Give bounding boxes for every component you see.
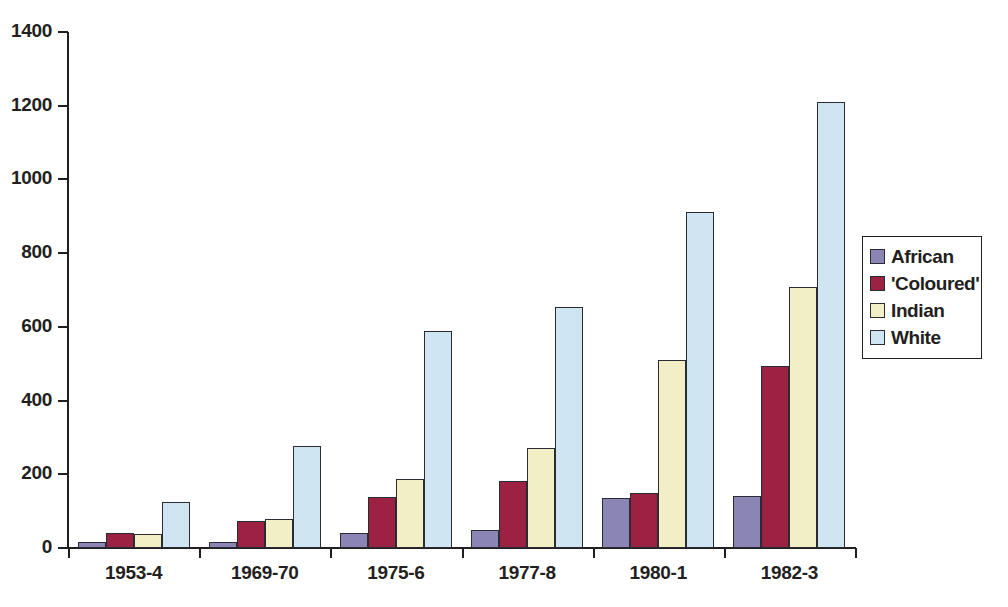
- legend-swatch-icon: [870, 249, 885, 264]
- bar: [78, 542, 106, 548]
- bar: [424, 331, 452, 548]
- bar: [527, 448, 555, 548]
- legend-swatch-icon: [870, 303, 885, 318]
- x-axis-tick: [855, 548, 857, 558]
- x-axis-tick: [199, 548, 201, 558]
- bar: [471, 530, 499, 548]
- x-axis-tick: [462, 548, 464, 558]
- bar: [368, 497, 396, 548]
- bar: [686, 212, 714, 548]
- bar-chart: 0200400600800100012001400 1953-41969-701…: [0, 0, 1008, 607]
- bar: [396, 479, 424, 548]
- chart-legend: African'Coloured'IndianWhite: [862, 236, 982, 359]
- bar: [134, 534, 162, 548]
- y-axis-tick: [58, 326, 68, 328]
- y-axis-tick-label: 0: [0, 536, 52, 558]
- bar: [817, 102, 845, 548]
- bar: [630, 493, 658, 548]
- x-axis-category-label: 1975-6: [330, 562, 461, 584]
- legend-item-label: 'Coloured': [891, 274, 979, 293]
- y-axis-tick-label: 600: [0, 315, 52, 337]
- bar: [237, 521, 265, 548]
- y-axis-tick-label: 800: [0, 241, 52, 263]
- bar: [499, 481, 527, 548]
- x-axis-category-label: 1982-3: [724, 562, 855, 584]
- y-axis-tick: [58, 400, 68, 402]
- bar: [555, 307, 583, 548]
- bar: [265, 519, 293, 548]
- x-axis-tick: [68, 548, 70, 558]
- bar: [658, 360, 686, 548]
- y-axis-tick-label: 400: [0, 389, 52, 411]
- bar: [162, 502, 190, 548]
- y-axis-tick: [58, 473, 68, 475]
- legend-item: African: [870, 243, 974, 270]
- x-axis-tick: [724, 548, 726, 558]
- y-axis-tick: [58, 252, 68, 254]
- y-axis-tick: [58, 105, 68, 107]
- bar: [602, 498, 630, 548]
- legend-item: White: [870, 324, 974, 351]
- bar: [733, 496, 761, 548]
- x-axis-category-label: 1969-70: [199, 562, 330, 584]
- y-axis-tick-label: 1400: [0, 20, 52, 42]
- y-axis-tick-label: 1200: [0, 94, 52, 116]
- legend-item-label: White: [891, 328, 941, 347]
- y-axis-tick: [58, 178, 68, 180]
- x-axis-tick: [593, 548, 595, 558]
- bar: [761, 366, 789, 548]
- x-axis-tick: [330, 548, 332, 558]
- bar: [209, 542, 237, 548]
- bar: [106, 533, 134, 548]
- legend-item-label: African: [891, 247, 954, 266]
- bar: [789, 287, 817, 548]
- x-axis-category-label: 1980-1: [593, 562, 724, 584]
- legend-item-label: Indian: [891, 301, 945, 320]
- x-axis-category-label: 1977-8: [462, 562, 593, 584]
- legend-item: 'Coloured': [870, 270, 974, 297]
- y-axis-tick-label: 1000: [0, 167, 52, 189]
- y-axis-tick: [58, 31, 68, 33]
- bar: [293, 446, 321, 548]
- legend-swatch-icon: [870, 330, 885, 345]
- y-axis-tick-label: 200: [0, 462, 52, 484]
- legend-swatch-icon: [870, 276, 885, 291]
- plot-area: [68, 32, 855, 548]
- x-axis-category-label: 1953-4: [68, 562, 199, 584]
- legend-item: Indian: [870, 297, 974, 324]
- bar: [340, 533, 368, 548]
